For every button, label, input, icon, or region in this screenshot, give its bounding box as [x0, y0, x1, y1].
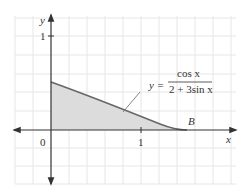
graph: y 1 0 1 x B y = cos x 2 + 3sin x: [0, 0, 244, 193]
origin-label: 0: [40, 136, 46, 148]
y-tick-label: 1: [40, 30, 46, 42]
leader-line: [123, 92, 140, 112]
numerator: cos x: [177, 67, 200, 79]
y-axis-label: y: [39, 14, 45, 26]
point-b-label: B: [188, 115, 195, 127]
grid: [15, 16, 236, 184]
svg-text:y =: y =: [148, 79, 164, 91]
equation: y = cos x 2 + 3sin x: [148, 67, 213, 95]
denominator: 2 + 3sin x: [169, 83, 213, 95]
x-axis-label: x: [225, 133, 231, 145]
x-tick-label: 1: [138, 136, 144, 148]
